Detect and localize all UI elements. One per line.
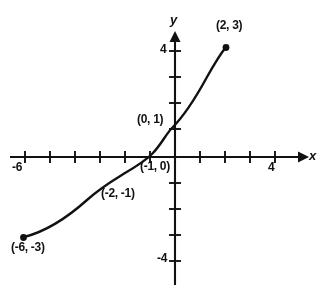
curve-path xyxy=(24,47,226,237)
y-tick-label-minus4: -4 xyxy=(157,252,167,264)
graph-figure: x y -6 4 4 -4 (2, 3) (0, 1) (-1, 0) (-2,… xyxy=(0,0,325,293)
point-label-minus2-minus1: (-2, -1) xyxy=(101,187,135,199)
endpoint-dot-upper-right xyxy=(223,44,230,51)
y-tick-label-4: 4 xyxy=(160,43,166,55)
x-tick-label-minus6: -6 xyxy=(12,161,22,173)
y-axis-arrow-icon xyxy=(170,31,181,42)
point-label-minus1-0: (-1, 0) xyxy=(140,160,170,172)
point-label-2-3: (2, 3) xyxy=(216,19,242,31)
point-label-0-1: (0, 1) xyxy=(137,113,163,125)
x-axis-arrow-icon xyxy=(298,152,309,163)
x-axis-label: x xyxy=(309,149,316,162)
y-axis-label: y xyxy=(170,13,177,26)
point-label-minus6-minus3: (-6, -3) xyxy=(11,241,45,253)
x-tick-label-4: 4 xyxy=(268,161,274,173)
